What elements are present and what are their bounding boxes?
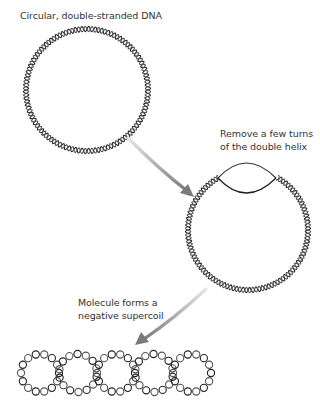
- arrow-to-unwound-icon: [128, 138, 194, 197]
- unwound-helix-bubble: [218, 163, 276, 193]
- relaxed-circular-dna: [23, 26, 150, 153]
- negative-supercoil: [17, 350, 214, 395]
- arrow-to-supercoil-icon: [135, 289, 206, 345]
- dna-supercoiling-diagram: [0, 0, 320, 412]
